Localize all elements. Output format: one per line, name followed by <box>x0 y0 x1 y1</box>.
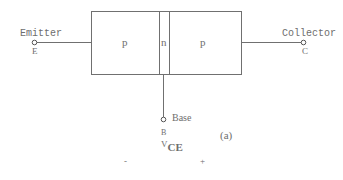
emitter-label: Emitter <box>20 29 62 39</box>
vce-subscript: CE <box>168 141 183 153</box>
base-label: Base <box>172 113 191 123</box>
emitter-terminal-icon <box>32 40 37 45</box>
collector-label: Collector <box>282 29 336 39</box>
collector-symbol: C <box>302 46 308 56</box>
collector-terminal-icon <box>301 40 306 45</box>
emitter-symbol: E <box>32 46 38 56</box>
pnp-transistor-diagram: Emitter E Collector C p n p Base B VCE (… <box>0 0 343 180</box>
diagram-graphics <box>0 0 343 180</box>
base-terminal-icon <box>161 117 166 122</box>
base-region-label: n <box>161 37 167 47</box>
vce-main: V <box>161 139 168 149</box>
vce-label: VCE <box>161 138 183 149</box>
vce-minus-sign: - <box>124 156 127 166</box>
collector-region-label: p <box>200 37 206 47</box>
figure-label: (a) <box>220 130 232 140</box>
base-symbol: B <box>161 128 166 138</box>
emitter-region-label: p <box>122 37 128 47</box>
vce-plus-sign: + <box>200 156 205 166</box>
